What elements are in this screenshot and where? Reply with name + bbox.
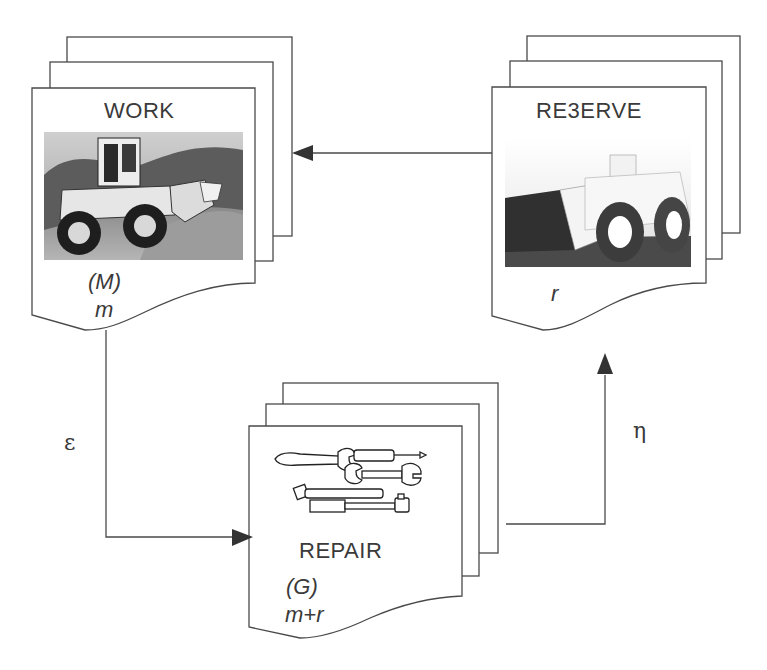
work-label: (M): [88, 271, 121, 293]
arrowhead-into-work: [292, 145, 313, 161]
repair-label: (G): [286, 576, 318, 598]
mining-loader-photo: [505, 138, 691, 267]
repair-count: m+r: [285, 604, 324, 626]
edge-work-to-repair: [106, 330, 233, 537]
reserve-title: RE3ERVE: [536, 100, 642, 122]
repair-node: [249, 383, 498, 638]
edge-label-eta: η: [633, 420, 646, 442]
edge-repair-to-reserve: [506, 375, 605, 524]
repair-title: REPAIR: [299, 540, 382, 562]
edge-label-epsilon: ε: [64, 432, 75, 454]
wheel-loader-photo: [44, 132, 243, 260]
arrowhead-into-reserve: [597, 353, 613, 374]
reserve-count: r: [551, 283, 558, 305]
work-count: m: [95, 299, 113, 321]
work-title: WORK: [104, 100, 174, 122]
